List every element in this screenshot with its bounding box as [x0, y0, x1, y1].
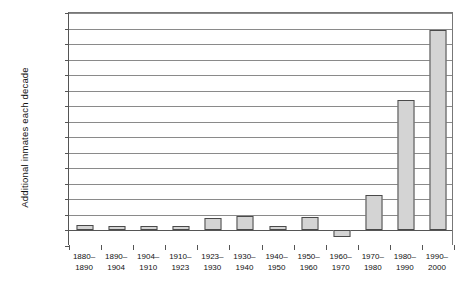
x-tick-label: 1890–1904 — [100, 251, 132, 273]
bar — [237, 216, 254, 230]
bar-slot — [133, 13, 165, 245]
x-tick-mark — [165, 245, 166, 250]
x-tick-label: 1970–1980 — [357, 251, 389, 273]
bar — [429, 30, 446, 230]
bar — [397, 100, 414, 230]
bar — [109, 226, 126, 231]
bar-slot — [294, 13, 326, 245]
bar-slot — [358, 13, 390, 245]
bar-slot — [197, 13, 229, 245]
x-tick-mark — [358, 245, 359, 250]
bar — [333, 230, 350, 236]
x-tick-label: 1950–1960 — [293, 251, 325, 273]
x-tick-label: 1980–1990 — [389, 251, 421, 273]
bar-slot — [262, 13, 294, 245]
bar-slot — [101, 13, 133, 245]
x-tick-label: 1880–1890 — [68, 251, 100, 273]
bar — [141, 226, 158, 231]
bar — [205, 218, 222, 230]
x-tick-mark — [262, 245, 263, 250]
bar-slot — [229, 13, 261, 245]
x-tick-mark — [422, 245, 423, 250]
x-tick-mark — [101, 245, 102, 250]
y-axis-title: Additional inmates each decade — [19, 18, 30, 258]
plot-area: 700,000650,000600,000550,000500,000450,0… — [68, 12, 453, 245]
x-tick-label: 1923–1930 — [196, 251, 228, 273]
x-tick-label: 1990–2000 — [421, 251, 453, 273]
bar-slot — [422, 13, 454, 245]
bar — [301, 217, 318, 230]
x-tick-mark — [326, 245, 327, 250]
bar-slot — [165, 13, 197, 245]
x-tick-label: 1960–1970 — [325, 251, 357, 273]
x-tick-label: 1910–1923 — [164, 251, 196, 273]
x-tick-mark — [454, 245, 455, 250]
x-tick-label: 1930–1940 — [228, 251, 260, 273]
bar-chart: Additional inmates each decade 700,00065… — [0, 0, 461, 292]
bar-slot — [69, 13, 101, 245]
x-axis-labels: 1880–18901890–19041904–19101910–19231923… — [68, 251, 453, 283]
bar-slot — [390, 13, 422, 245]
bar-slot — [326, 13, 358, 245]
bar — [77, 225, 94, 231]
x-tick-mark — [197, 245, 198, 250]
x-tick-label: 1940–1950 — [261, 251, 293, 273]
bar — [269, 226, 286, 231]
x-tick-label: 1904–1910 — [132, 251, 164, 273]
bar — [173, 226, 190, 231]
bar — [365, 195, 382, 231]
x-tick-mark — [390, 245, 391, 250]
x-tick-mark — [229, 245, 230, 250]
x-tick-mark — [69, 245, 70, 250]
x-tick-mark — [294, 245, 295, 250]
x-tick-mark — [133, 245, 134, 250]
bar-series — [69, 13, 452, 245]
